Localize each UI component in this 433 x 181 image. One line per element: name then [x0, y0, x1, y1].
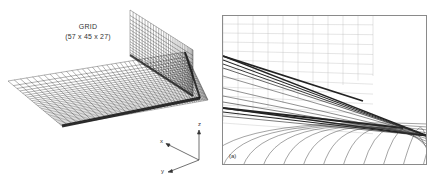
z-axis-label: z — [198, 121, 201, 127]
grid-title-label: GRID — [58, 22, 118, 32]
grid-figure-panel: GRID (57 x 45 x 27) z x y — [0, 0, 215, 181]
x-axis-label: x — [160, 138, 163, 144]
y-axis-label: y — [161, 168, 164, 174]
closeup-figure-panel: (a) — [222, 15, 427, 165]
grid-dimensions: (57 x 45 x 27) — [58, 32, 118, 42]
closeup-mesh-drawing — [223, 16, 427, 165]
grid-title: GRID (57 x 45 x 27) — [58, 22, 118, 42]
axis-triad-icon — [166, 130, 201, 173]
panel-label: (a) — [229, 153, 236, 159]
